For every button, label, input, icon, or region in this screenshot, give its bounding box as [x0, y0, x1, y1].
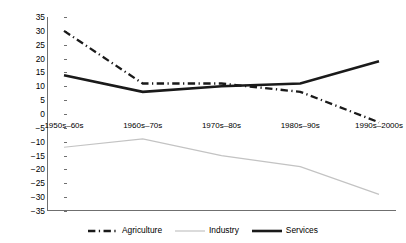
series-line-services: [64, 61, 379, 91]
x-axis-category-label: 1970s–80s: [202, 121, 241, 130]
series-line-agriculture: [64, 31, 379, 122]
y-axis-tick-label: 10: [21, 82, 45, 90]
y-axis-tick-label: 30: [21, 27, 45, 35]
y-axis-tick-label: −10: [21, 138, 45, 146]
y-axis-tick-mark: [64, 211, 67, 212]
y-axis-tick-label: −25: [21, 179, 45, 187]
y-axis-tick-label: 20: [21, 55, 45, 63]
y-axis-tick-label: −35: [21, 207, 45, 215]
y-axis-tick-label: 25: [21, 41, 45, 49]
legend-item-industry[interactable]: Industry: [175, 226, 239, 236]
legend-item-services[interactable]: Services: [252, 226, 318, 236]
y-axis-tick-label: −30: [21, 193, 45, 201]
legend-item-agriculture[interactable]: Agriculture: [88, 226, 162, 236]
legend-swatch-industry-icon: [175, 226, 205, 236]
series-lines: [47, 17, 396, 211]
y-axis-tick-label: −5: [21, 124, 45, 132]
y-axis-tick-label: 5: [21, 96, 45, 104]
legend-swatch-services-icon: [252, 226, 282, 236]
chart-container: Percentage change in share 3530252015105…: [0, 0, 406, 243]
x-axis-category-label: 1960s–70s: [123, 121, 162, 130]
legend-label: Services: [286, 226, 318, 235]
chart-legend: AgricultureIndustryServices: [0, 218, 406, 243]
x-axis-category-label: 1950s–60s: [44, 121, 83, 130]
y-axis-tick-label: −20: [21, 165, 45, 173]
y-axis-tick-label: −15: [21, 152, 45, 160]
y-axis-tick-labels: 35302520151050−5−10−15−20−25−30−35: [19, 17, 45, 211]
series-line-industry: [64, 139, 379, 194]
legend-label: Industry: [209, 226, 239, 235]
legend-swatch-agriculture-icon: [88, 226, 118, 236]
legend-label: Agriculture: [122, 226, 162, 235]
y-axis-tick-label: 15: [21, 68, 45, 76]
x-axis-category-label: 1990s–2000s: [355, 121, 403, 130]
y-axis-tick-label: 0: [21, 110, 45, 118]
x-axis-category-label: 1980s–90s: [281, 121, 320, 130]
plot-area: 1950s–60s1960s–70s1970s–80s1980s–90s1990…: [47, 17, 396, 211]
y-axis-tick-label: 35: [21, 13, 45, 21]
